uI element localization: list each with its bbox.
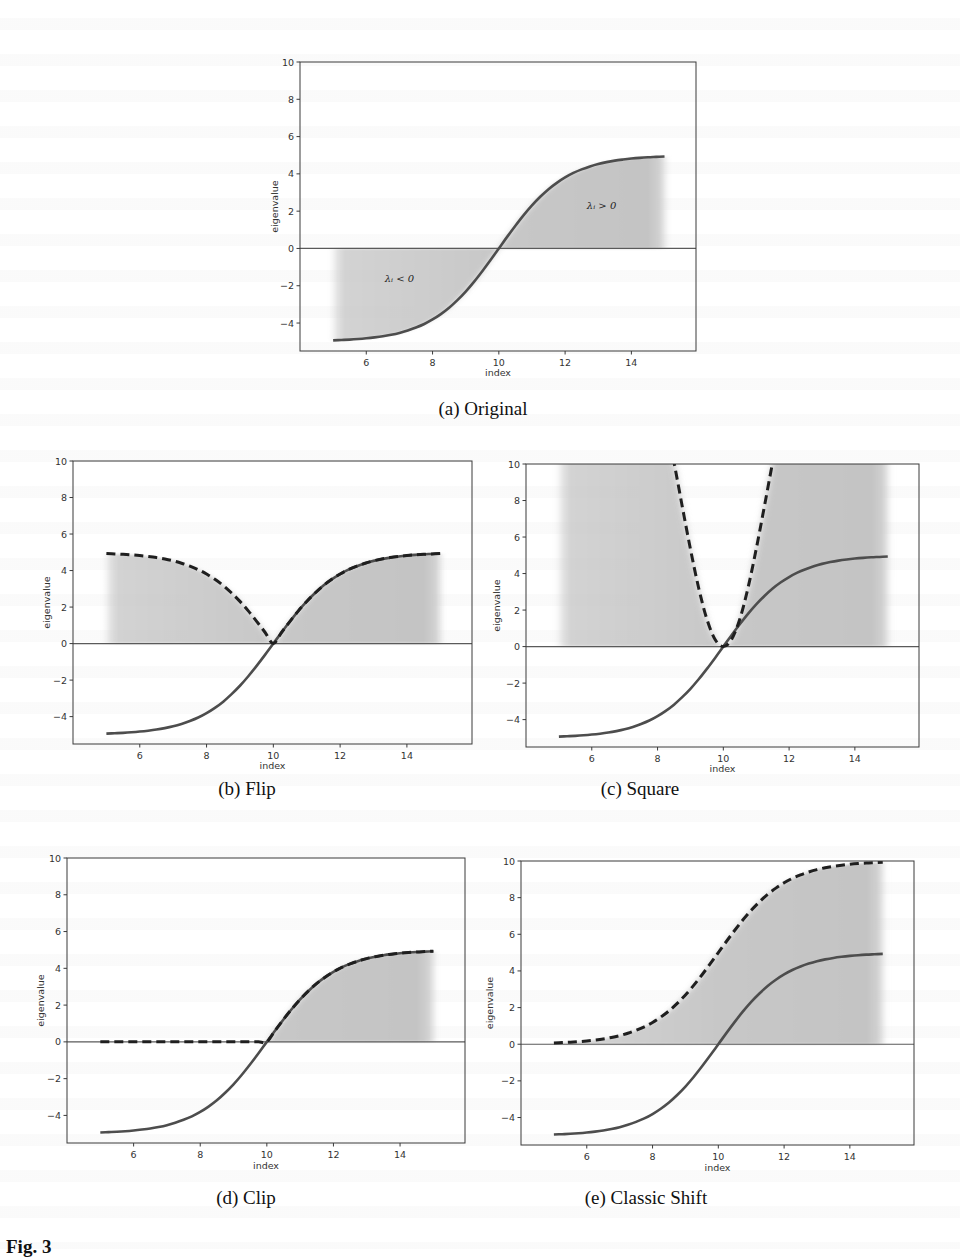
x-tick-label: 10 bbox=[712, 1151, 724, 1162]
y-axis-label: eigenvalue bbox=[484, 977, 495, 1029]
x-axis-label: index bbox=[705, 1162, 731, 1173]
plot-area bbox=[521, 862, 914, 1134]
y-tick-label: 8 bbox=[509, 892, 515, 903]
y-tick-label: 6 bbox=[509, 929, 515, 940]
y-tick-label: 0 bbox=[509, 1039, 515, 1050]
x-tick-label: 14 bbox=[844, 1151, 856, 1162]
y-tick-label: 4 bbox=[509, 965, 515, 976]
y-tick-label: −2 bbox=[501, 1075, 515, 1086]
figure-label: Fig. 3 bbox=[6, 1236, 51, 1258]
x-tick-label: 8 bbox=[650, 1151, 656, 1162]
x-tick-label: 12 bbox=[778, 1151, 790, 1162]
caption-classic-shift: (e) Classic Shift bbox=[585, 1187, 707, 1209]
y-tick-label: 2 bbox=[509, 1002, 515, 1013]
x-tick-label: 6 bbox=[584, 1151, 590, 1162]
y-tick-label: 10 bbox=[503, 856, 515, 867]
y-tick-label: −4 bbox=[501, 1112, 515, 1123]
